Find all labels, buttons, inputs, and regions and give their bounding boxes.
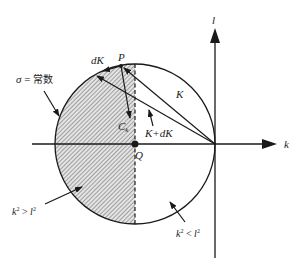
label-q: Q <box>135 149 143 161</box>
label-region-right: k2 < l2 <box>176 228 200 239</box>
l-axis-label: l <box>212 14 215 26</box>
label-k: K <box>175 88 184 100</box>
point-q <box>132 141 139 148</box>
diagram-canvas: l k P dK K K+dK Q Ck σ = 常数 k2 > l2 k2 <… <box>0 0 300 271</box>
k-axis-label: k <box>284 138 290 150</box>
l-axis-arrowhead-icon <box>210 28 220 43</box>
label-region-left: k2 > l2 <box>12 206 36 217</box>
label-sigma-constant: σ = 常数 <box>16 73 53 85</box>
point-p <box>119 64 123 68</box>
label-dk: dK <box>91 54 105 66</box>
k-axis-arrowhead-icon <box>262 139 277 149</box>
sigma-pointer-arrow <box>44 91 59 116</box>
label-p: P <box>117 51 125 63</box>
label-k-plus-dk: K+dK <box>144 127 173 139</box>
k-plus-dk-pointer-arrow <box>149 110 153 126</box>
region-right-pointer-arrow <box>170 202 185 222</box>
